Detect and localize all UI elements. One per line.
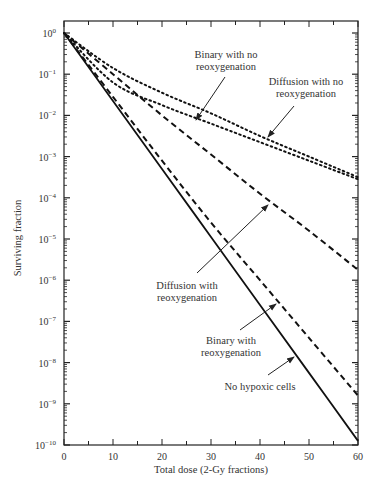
- x-axis-title: Total dose (2-Gy fractions): [154, 464, 268, 476]
- svg-text:Binary with no: Binary with no: [195, 49, 258, 60]
- y-tick-label: 10−5: [39, 233, 57, 245]
- svg-text:Diffusion with: Diffusion with: [156, 280, 218, 291]
- arrow-icon: [197, 205, 268, 273]
- x-tick-label: 20: [157, 451, 167, 462]
- svg-text:reoxygenation: reoxygenation: [157, 292, 218, 303]
- y-tick-label: 10−4: [39, 192, 57, 204]
- y-tick-label: 10−9: [39, 398, 57, 410]
- x-tick-label: 50: [304, 451, 314, 462]
- y-tick-label: 10−3: [39, 151, 57, 163]
- arrow-icon: [240, 304, 276, 330]
- x-tick-label: 30: [206, 451, 216, 462]
- x-tick-label: 40: [255, 451, 265, 462]
- svg-text:reoxygenation: reoxygenation: [276, 88, 337, 99]
- x-tick-label: 0: [62, 451, 67, 462]
- annotation-diffusion-no-reox: Diffusion with no reoxygenation: [268, 76, 343, 137]
- annotation-diffusion-reox: Diffusion with reoxygenation: [156, 205, 268, 303]
- x-tick-label: 60: [353, 451, 363, 462]
- y-tick-label: 100: [43, 27, 57, 39]
- x-tick-label: 10: [108, 451, 118, 462]
- y-tick-label: 10−8: [39, 357, 57, 369]
- arrow-icon: [268, 357, 294, 375]
- svg-text:No hypoxic cells: No hypoxic cells: [224, 381, 295, 392]
- annotation-no-hypoxic: No hypoxic cells: [224, 357, 295, 392]
- y-axis-title: Surviving fraction: [12, 199, 23, 276]
- y-tick-labels: 10010−110−210−310−410−510−610−710−810−91…: [35, 27, 56, 451]
- y-tick-label: 10−6: [39, 274, 57, 286]
- svg-text:reoxygenation: reoxygenation: [201, 347, 262, 358]
- svg-text:reoxygenation: reoxygenation: [196, 61, 257, 72]
- survival-chart: 10010−110−210−310−410−510−610−710−810−91…: [0, 0, 379, 493]
- arrow-icon: [268, 106, 294, 137]
- x-tick-labels: 0102030405060: [62, 451, 364, 462]
- y-tick-label: 10−10: [35, 439, 56, 451]
- y-tick-label: 10−2: [39, 109, 57, 121]
- svg-text:Binary with: Binary with: [206, 335, 257, 346]
- annotation-binary-reox: Binary with reoxygenation: [201, 304, 276, 358]
- y-tick-label: 10−7: [39, 315, 57, 327]
- y-tick-label: 10−1: [39, 68, 57, 80]
- svg-text:Diffusion with no: Diffusion with no: [269, 76, 343, 87]
